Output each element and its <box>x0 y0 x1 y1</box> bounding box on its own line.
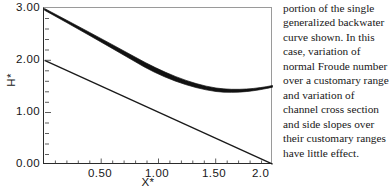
y-minor-ticks <box>45 19 51 155</box>
y-tick-label-2: 2.00 <box>0 53 40 65</box>
y-tick-label-0: 0.00 <box>0 157 40 169</box>
y-tick-label-1: 1.00 <box>0 105 40 117</box>
x-minor-ticks <box>55 159 261 165</box>
plot-canvas <box>44 8 273 165</box>
x-tick-label-2: 1.50 <box>194 167 234 179</box>
body-text-column: portion of the single generalized backwa… <box>283 1 389 193</box>
y-axis-title: H* <box>5 65 17 95</box>
figure-page: 3.00 2.00 1.00 0.00 H* 0.50 1.00 1.50 2.… <box>0 0 389 193</box>
body-paragraph: portion of the single generalized backwa… <box>283 1 389 160</box>
series-backwater-curve <box>45 9 273 93</box>
plot-frame <box>43 7 272 164</box>
series-normal-depth-line <box>45 60 273 164</box>
y-tick-label-3: 3.00 <box>0 1 40 13</box>
x-tick-label-0: 0.50 <box>80 167 120 179</box>
x-axis-title: X* <box>128 176 168 188</box>
backwater-curve-figure: 3.00 2.00 1.00 0.00 H* 0.50 1.00 1.50 2.… <box>0 0 280 193</box>
